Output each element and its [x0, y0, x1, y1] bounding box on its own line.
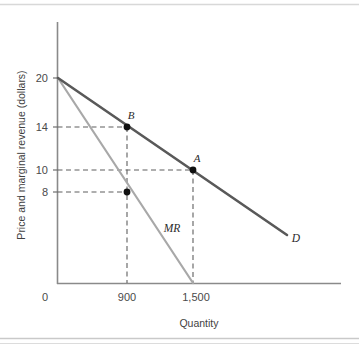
x-tick-label-1500: 1,500	[182, 291, 210, 303]
x-tick-label-0: 0	[42, 291, 48, 303]
x-axis-title: Quantity	[179, 317, 219, 329]
data-point-b	[124, 124, 131, 131]
figure-container: 20 14 10 8 0 900 1,500 B A D MR Quantity…	[0, 0, 359, 348]
y-axis-title: Price and marginal revenue (dollars)	[15, 70, 27, 239]
y-tick-label-14: 14	[36, 121, 48, 133]
y-tick-label-10: 10	[36, 164, 48, 176]
y-tick-label-8: 8	[42, 186, 48, 198]
y-tick-label-20: 20	[36, 72, 48, 84]
economics-demand-mr-chart: 20 14 10 8 0 900 1,500 B A D MR Quantity…	[0, 0, 359, 348]
curve-label-d: D	[291, 232, 301, 244]
x-tick-label-900: 900	[118, 291, 136, 303]
point-label-a: A	[193, 152, 201, 164]
mr-curve	[58, 78, 193, 283]
curve-label-mr: MR	[163, 222, 181, 234]
point-label-b: B	[128, 109, 135, 121]
data-point-mr-900	[124, 189, 131, 196]
data-point-a	[190, 167, 197, 174]
demand-curve	[58, 78, 287, 235]
